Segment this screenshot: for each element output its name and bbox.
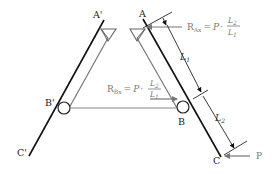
- svg-text:L1: L1: [149, 90, 159, 100]
- label-c: C: [213, 155, 220, 166]
- roller-b-prime: [58, 102, 70, 114]
- svg-text:L2: L2: [227, 16, 237, 26]
- r-ax-formula: RAx=P· L2 L1: [187, 16, 240, 38]
- label-b: B: [178, 116, 185, 127]
- roller-b: [177, 101, 189, 113]
- svg-text:L2: L2: [149, 79, 159, 89]
- r-bx-formula: RBx=P· L2 L1: [107, 79, 161, 100]
- right-hinge-tick: [137, 29, 145, 38]
- dim-angle-arrow: [163, 18, 166, 25]
- label-l1: L1: [179, 51, 190, 63]
- ladder-force-diagram: A' A B' B C' C P L1 L2 RAx=P· L2 L1 RBx=…: [0, 0, 277, 174]
- label-l2: L2: [214, 112, 225, 124]
- left-hinge-tick: [101, 29, 108, 38]
- label-a: A: [138, 8, 146, 19]
- label-a-prime: A': [92, 9, 102, 20]
- label-b-prime: B': [45, 97, 55, 108]
- label-c-prime: C': [17, 147, 27, 158]
- svg-text:RBx=P·: RBx=P·: [107, 84, 143, 95]
- left-hinge-triangle: [101, 29, 116, 41]
- label-p: P: [256, 151, 262, 161]
- svg-text:L1: L1: [227, 28, 237, 38]
- svg-text:RAx=P·: RAx=P·: [187, 22, 223, 33]
- dim-tick-c: [224, 141, 247, 155]
- left-member: [29, 20, 104, 156]
